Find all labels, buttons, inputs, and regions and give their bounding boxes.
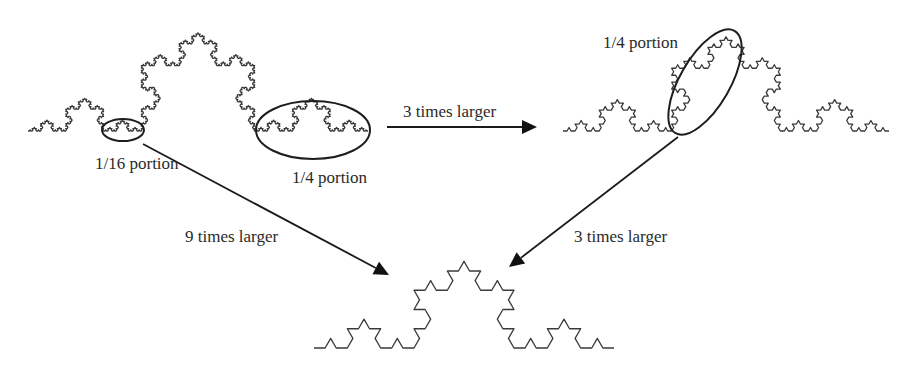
label-1-4-portion-right: 1/4 portion: [603, 34, 678, 51]
scale-arrows: [143, 120, 678, 275]
arrowhead-icon: [509, 252, 525, 267]
arrow-3x-diagonal: [509, 137, 678, 267]
label-1-4-portion-left: 1/4 portion: [292, 169, 367, 186]
diagram-canvas: [0, 0, 921, 370]
label-9-times-larger: 9 times larger: [185, 228, 278, 245]
label-1-16-portion: 1/16 portion: [95, 155, 179, 172]
label-3-times-larger-top: 3 times larger: [403, 103, 496, 120]
koch-curves: [28, 33, 889, 348]
koch-original-curve: [28, 33, 368, 131]
label-3-times-larger-bottom: 3 times larger: [574, 228, 667, 245]
ellipse-1-4-portion-left: [256, 101, 370, 159]
koch-diagram: 1/16 portion 1/4 portion 1/4 portion 3 t…: [0, 0, 921, 370]
arrow-3x-horizontal: [387, 120, 537, 134]
koch-9x-curve: [314, 261, 614, 348]
arrowhead-icon: [522, 120, 537, 134]
arrow-9x: [143, 144, 389, 275]
